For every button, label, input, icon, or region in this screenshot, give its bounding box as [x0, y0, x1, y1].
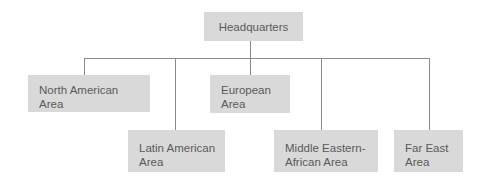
node-european-area: European Area — [210, 75, 290, 113]
org-chart: Headquarters North American Area Europea… — [0, 0, 486, 179]
connector-hq-down — [250, 41, 251, 58]
node-middle-eastern-african-area: Middle Eastern- African Area — [274, 130, 378, 172]
connector-north-american — [84, 58, 85, 75]
node-far-east-area: Far East Area — [394, 130, 463, 172]
connector-latin-american — [175, 58, 176, 130]
connector-european — [250, 58, 251, 75]
node-north-american-area: North American Area — [28, 75, 150, 112]
node-headquarters: Headquarters — [204, 12, 303, 41]
node-label: Headquarters — [219, 20, 289, 34]
node-label: Far East Area — [405, 141, 463, 169]
node-label: European Area — [221, 83, 290, 111]
node-label: North American Area — [39, 83, 150, 111]
connector-middle-eastern-african — [321, 58, 322, 130]
node-label: Latin American Area — [139, 141, 225, 169]
connector-horizontal-bus — [84, 58, 430, 59]
node-label: Middle Eastern- African Area — [285, 141, 378, 169]
connector-far-east — [429, 58, 430, 130]
node-latin-american-area: Latin American Area — [128, 130, 225, 172]
